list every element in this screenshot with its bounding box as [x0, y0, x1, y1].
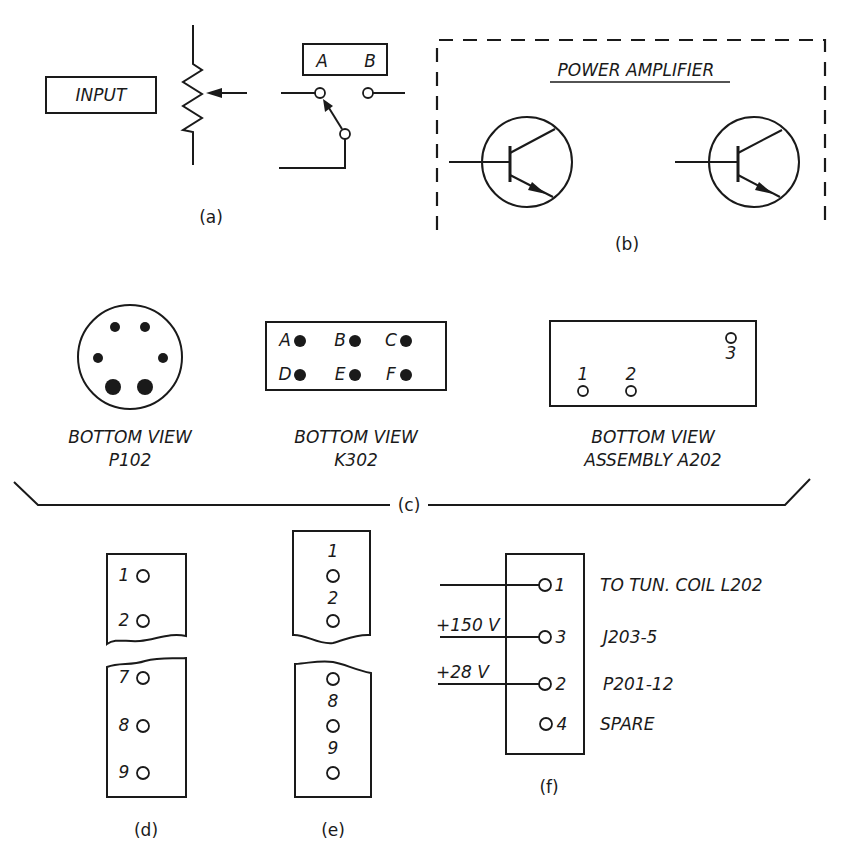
wire-voltage-label: +28 V — [436, 662, 490, 682]
connector-pin — [140, 322, 150, 332]
panel-b: POWER AMPLIFIER (b) — [437, 40, 825, 254]
pin-label: 9 — [119, 762, 130, 782]
panel-c: BOTTOM VIEW P102 A B C D E F BOTTOM VIEW… — [14, 305, 810, 515]
terminal-destination: SPARE — [600, 714, 655, 734]
pin-label: 9 — [328, 738, 339, 758]
pin-label: E — [335, 364, 346, 384]
wire-voltage-label: +150 V — [436, 615, 501, 635]
connector-k302: A B C D E F — [266, 322, 446, 390]
panel-e: 1 2 8 9 (e) — [293, 531, 371, 840]
transistor-icon — [449, 117, 572, 207]
pin-label: 2 — [328, 588, 339, 608]
view-label-k302-line1: BOTTOM VIEW — [294, 427, 419, 447]
pin-label: D — [278, 364, 291, 384]
switch-contact-a — [315, 88, 325, 98]
input-label: INPUT — [76, 85, 128, 105]
panel-f: 1 TO TUN. COIL L202 +150 V 3 J203-5 +28 … — [436, 554, 763, 797]
terminal-number: 4 — [557, 714, 568, 734]
caption-a: (a) — [199, 207, 223, 227]
ab-switch: A B — [279, 44, 405, 168]
assembly-a202: 1 2 3 — [550, 321, 756, 406]
potentiometer-icon — [183, 25, 247, 165]
caption-c: (c) — [398, 495, 421, 515]
pin-label: 7 — [119, 667, 130, 687]
view-label-p102-line1: BOTTOM VIEW — [68, 427, 193, 447]
terminal-number: 1 — [555, 575, 566, 595]
connector-pin — [137, 379, 153, 395]
caption-d: (d) — [134, 820, 158, 840]
pin-label: C — [385, 330, 397, 350]
pin-label: 1 — [119, 565, 130, 585]
pin-label: 1 — [578, 364, 589, 384]
pin-label: 3 — [726, 343, 737, 363]
caption-e: (e) — [321, 820, 345, 840]
caption-f: (f) — [539, 777, 558, 797]
terminal-destination: TO TUN. COIL L202 — [600, 575, 763, 595]
connector-p102 — [78, 305, 182, 409]
pin-label: B — [334, 330, 346, 350]
connector-pin — [93, 353, 103, 363]
view-label-k302-line2: K302 — [334, 450, 378, 470]
terminal-number: 2 — [556, 674, 567, 694]
bracket-right — [428, 479, 810, 505]
transistor-icon — [675, 117, 799, 207]
connector-pin — [158, 353, 168, 363]
switch-contact-b — [363, 88, 373, 98]
panel-a: INPUT A B (a) — [46, 25, 405, 227]
pin-label: 2 — [626, 364, 637, 384]
power-amplifier-title: POWER AMPLIFIER — [558, 60, 715, 80]
panel-d: 1 2 7 8 9 (d) — [107, 554, 186, 840]
caption-b: (b) — [615, 234, 639, 254]
terminal-number: 3 — [556, 627, 567, 647]
switch-label-a: A — [315, 51, 328, 71]
pin-label: A — [278, 330, 291, 350]
terminal-destination: P201-12 — [603, 674, 673, 694]
pin-label: 8 — [119, 715, 130, 735]
terminal-destination: J203-5 — [600, 627, 657, 647]
schematic-figure: INPUT A B (a) POWER AMPLIFIER — [0, 0, 843, 863]
pin-label: 1 — [328, 541, 339, 561]
switch-pivot — [340, 129, 350, 139]
view-label-a202-line1: BOTTOM VIEW — [591, 427, 716, 447]
connector-pin — [105, 379, 121, 395]
pin-label: 8 — [328, 691, 339, 711]
view-label-p102-line2: P102 — [109, 450, 152, 470]
pin-label: F — [386, 364, 396, 384]
pin-label: 2 — [119, 610, 130, 630]
switch-label-b: B — [364, 51, 376, 71]
connector-pin — [110, 322, 120, 332]
view-label-a202-line2: ASSEMBLY A202 — [583, 450, 721, 470]
bracket-left — [14, 482, 390, 505]
